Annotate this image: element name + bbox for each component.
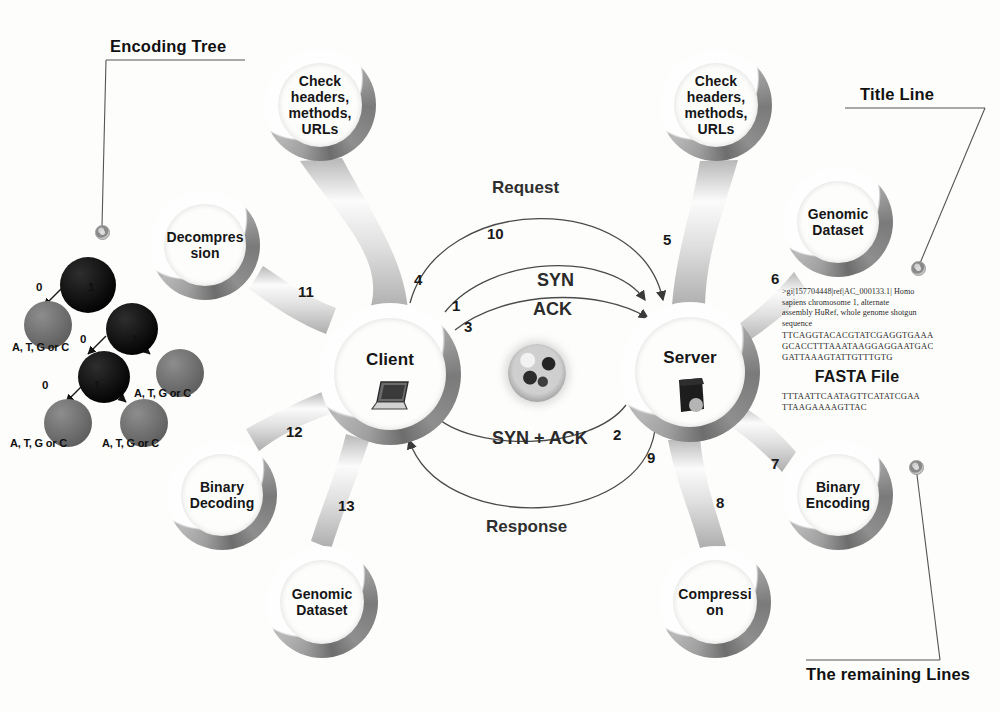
- node-label-client: Client: [366, 350, 414, 370]
- tree-leaf-caption-2: A, T, G or C: [134, 387, 191, 399]
- pin-encoding-tree: [95, 225, 110, 240]
- spoke-number-client-decompression: 11: [298, 283, 314, 300]
- fasta-seq-top-1: TTCAGGTACACGTATCGAGGTGAAA: [782, 330, 932, 341]
- fasta-seq-bottom-2: TTAAGAAAAGTTAC: [782, 402, 932, 413]
- spoke-number-server-genomic-dataset: 6: [771, 270, 779, 287]
- tree-leaf-caption-3: A, T, G or C: [10, 437, 67, 449]
- fasta-file-title: FASTA File: [782, 366, 932, 387]
- tree-bit-bit-1-a: 1: [88, 281, 94, 293]
- node-label-server: Server: [663, 348, 717, 368]
- request-label: Request: [492, 178, 559, 198]
- node-label-check-headers-server: Checkheaders,methods,URLs: [684, 73, 747, 138]
- tree-bit-bit-0-b: 0: [80, 333, 86, 345]
- node-binary-encoding[interactable]: BinaryEncoding: [783, 440, 893, 550]
- globe-icon: [508, 344, 566, 402]
- node-check-headers-client[interactable]: Checkheaders,methods,URLs: [264, 49, 376, 161]
- fasta-seq-top-3: GATTAAAGTATTGTTTGTG: [782, 352, 932, 363]
- tree-bit-bit-1-c: 1: [94, 379, 100, 391]
- spoke-number-server-check-headers: 5: [663, 231, 671, 248]
- callout-encoding-tree: Encoding Tree: [110, 37, 226, 56]
- arc-number-1: 1: [452, 297, 460, 314]
- arc-number-2: 2: [613, 426, 621, 443]
- node-label-binary-encoding: BinaryEncoding: [806, 479, 871, 511]
- fasta-seq-bottom-1: TTTAATTCAATAGTTCATATCGAA: [782, 391, 932, 402]
- node-label-genomic-dataset-client: GenomicDataset: [292, 586, 353, 618]
- tree-leaf-caption-1: A, T, G or C: [12, 341, 69, 353]
- syn-label: SYN: [537, 270, 574, 291]
- fasta-header-line-4: sequence: [782, 319, 932, 330]
- node-binary-decoding[interactable]: BinaryDecoding: [167, 440, 277, 550]
- tree-bit-bit-0-c: 0: [42, 379, 48, 391]
- arc-number-4: 4: [414, 271, 422, 288]
- spoke-number-client-genomic-dataset: 13: [338, 497, 355, 514]
- callout-remaining-lines: The remaining Lines: [806, 665, 970, 684]
- fasta-header-line-3: assembly HuRef, whole genome shotgun: [782, 308, 932, 319]
- fasta-seq-top-2: GCACCTTTAAATAAGGAGGAATGAC: [782, 341, 932, 352]
- arc-number-3: 3: [464, 318, 472, 335]
- syn-ack-label: SYN + ACK: [492, 428, 588, 449]
- spoke-number-client-binary-decoding: 12: [286, 423, 303, 440]
- spoke-number-server-binary-encoding: 7: [771, 455, 779, 472]
- node-label-genomic-dataset-server: GenomicDataset: [808, 206, 869, 238]
- spoke-number-client-check-headers: 10: [487, 225, 504, 242]
- node-client[interactable]: Client: [319, 303, 461, 445]
- callout-title-line: Title Line: [860, 85, 934, 104]
- spoke-number-server-compression: 8: [716, 494, 724, 511]
- laptop-icon: [368, 380, 414, 414]
- server-rack-icon: [671, 376, 711, 416]
- node-compression[interactable]: Compression: [659, 546, 771, 658]
- pin-title-line: [911, 261, 926, 276]
- ack-label: ACK: [533, 299, 572, 320]
- node-genomic-dataset-server[interactable]: GenomicDataset: [783, 167, 893, 277]
- fasta-file-text: >gi|157704448|ref|AC_000133.1| Homo sapi…: [782, 287, 932, 414]
- node-label-compression: Compression: [678, 586, 751, 618]
- tree-bit-bit-1-b: 1: [132, 333, 138, 345]
- node-check-headers-server[interactable]: Checkheaders,methods,URLs: [660, 49, 772, 161]
- diagram-canvas: Checkheaders,methods,URLsDecompressionCl…: [0, 0, 1000, 712]
- node-server[interactable]: Server: [620, 302, 760, 442]
- fasta-header-line-1: >gi|157704448|ref|AC_000133.1| Homo: [782, 287, 932, 298]
- fasta-header-line-2: sapiens chromosome 1, alternate: [782, 298, 932, 309]
- node-genomic-dataset-client[interactable]: GenomicDataset: [266, 546, 378, 658]
- node-label-check-headers-client: Checkheaders,methods,URLs: [288, 73, 351, 138]
- pin-remaining-lines: [909, 460, 924, 475]
- node-label-binary-decoding: BinaryDecoding: [190, 479, 255, 511]
- response-label: Response: [486, 517, 567, 537]
- tree-node-internal-1: [106, 303, 158, 355]
- tree-leaf-caption-4: A, T, G or C: [102, 437, 159, 449]
- tree-bit-bit-0-a: 0: [36, 281, 42, 293]
- arc-number-9: 9: [647, 449, 655, 466]
- tree-node-internal-2: [78, 351, 130, 403]
